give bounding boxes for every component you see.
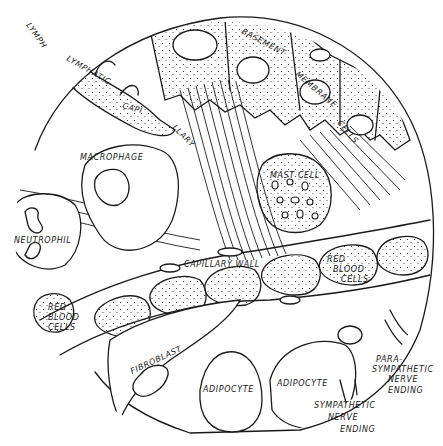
basement-membrane-cells: [150, 19, 410, 150]
label-lymphatic-capillary: LYMPH: [24, 21, 48, 50]
label-red-blood-cells: RED: [48, 303, 67, 312]
label-parasympathetic-nerve-ending: ENDING: [388, 386, 423, 395]
label-sympathetic-nerve-ending: ENDING: [340, 425, 375, 434]
label-red-blood-cells: BLOOD: [333, 265, 364, 274]
label-red-blood-cells: BLOOD: [48, 313, 79, 322]
label-red-blood-cells: RED: [327, 255, 346, 264]
label-neutrophil: NEUTROPHIL: [14, 236, 71, 245]
mast-cell: [257, 154, 331, 233]
label-sympathetic-nerve-ending: NERVE: [328, 413, 358, 422]
connective-tissue-illustration: LYMPH LYMPHATIC CAPI LLARY BASEMENT MEMB…: [0, 0, 443, 446]
label-red-blood-cells: CELLS: [341, 275, 369, 284]
label-sympathetic-nerve-ending: SYMPATHETIC: [314, 401, 376, 410]
label-red-blood-cells: CELLS: [48, 323, 76, 332]
label-mast-cell: MAST CELL: [270, 171, 320, 180]
label-adipocyte: ADIPOCYTE: [276, 379, 328, 388]
label-parasympathetic-nerve-ending: SYMPATHETIC: [372, 365, 434, 374]
label-parasympathetic-nerve-ending: NERVE: [388, 375, 418, 384]
label-parasympathetic-nerve-ending: PARA-: [376, 355, 403, 364]
label-capillary-wall: CAPILLARY WALL: [184, 260, 260, 269]
label-macrophage: MACROPHAGE: [80, 153, 144, 162]
neutrophil: [12, 194, 81, 269]
capillary: [34, 220, 430, 355]
label-adipocyte: ADIPOCYTE: [202, 385, 254, 394]
